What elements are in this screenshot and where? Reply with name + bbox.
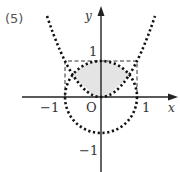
problem-number: (5)	[5, 11, 23, 26]
origin-label: O	[86, 100, 97, 115]
y-tick-neg1-label: −1	[79, 143, 98, 158]
x-axis-label: x	[168, 101, 175, 115]
y-axis-label: y	[84, 9, 92, 23]
x-tick-neg1-label: −1	[40, 100, 59, 115]
x-tick-pos1-label: 1	[142, 100, 150, 115]
y-tick-pos1-label: 1	[89, 44, 97, 59]
y-axis-arrow-icon	[98, 6, 105, 16]
graph-figure: (5) y x O −1 1 1 −1	[0, 0, 180, 172]
x-axis-arrow-icon	[168, 94, 178, 101]
